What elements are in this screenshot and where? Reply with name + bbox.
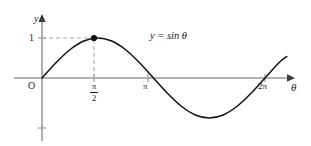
sine-curve-figure: y θ y = sin θ O 1 π 2 π 2π bbox=[0, 0, 311, 146]
fraction-denominator: 2 bbox=[86, 94, 102, 104]
fraction-numerator: π bbox=[86, 82, 102, 92]
x-axis-label: θ bbox=[291, 82, 296, 93]
y-tick-label-one: 1 bbox=[29, 33, 34, 43]
equation-label: y = sin θ bbox=[150, 31, 187, 42]
x-tick-label-pi-over-2: π 2 bbox=[86, 82, 102, 103]
sine-plot-canvas bbox=[0, 0, 311, 146]
x-tick-label-two-pi: 2π bbox=[258, 82, 267, 91]
y-axis-label: y bbox=[34, 14, 38, 24]
x-tick-label-pi: π bbox=[143, 82, 148, 91]
origin-label: O bbox=[28, 81, 35, 91]
y-axis-arrow-icon bbox=[38, 14, 45, 22]
peak-point-marker bbox=[91, 35, 97, 41]
